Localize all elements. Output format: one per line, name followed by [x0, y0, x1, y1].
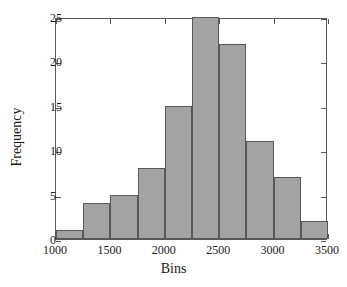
- x-tick-mark: [165, 234, 166, 239]
- y-tick-mark-right: [321, 19, 326, 20]
- x-tick-label: 3500: [315, 243, 339, 258]
- x-tick-label: 2000: [152, 243, 176, 258]
- histogram-figure: 100015002000250030003500 0510152025 Bins…: [0, 0, 347, 287]
- x-tick-mark: [56, 234, 57, 239]
- x-axis-title: Bins: [0, 261, 347, 277]
- y-tick-mark-right: [321, 152, 326, 153]
- histogram-bar: [274, 177, 301, 239]
- histogram-bar: [56, 230, 83, 239]
- y-tick-mark-right: [321, 197, 326, 198]
- histogram-bar: [219, 44, 246, 239]
- bar-series: [56, 19, 326, 239]
- x-tick-label: 3000: [261, 243, 285, 258]
- y-tick-mark-right: [321, 241, 326, 242]
- y-tick-mark: [56, 241, 61, 242]
- plot-area: [55, 18, 327, 240]
- x-tick-mark: [274, 234, 275, 239]
- histogram-bar: [138, 168, 165, 239]
- x-tick-mark: [219, 234, 220, 239]
- histogram-bar: [110, 195, 137, 239]
- histogram-bar: [301, 221, 328, 239]
- x-tick-mark-top: [274, 19, 275, 24]
- x-tick-mark-top: [165, 19, 166, 24]
- x-tick-label: 2500: [206, 243, 230, 258]
- y-tick-mark-right: [321, 63, 326, 64]
- histogram-bar: [83, 203, 110, 239]
- x-tick-mark-top: [328, 19, 329, 24]
- x-tick-mark-top: [110, 19, 111, 24]
- y-tick-mark: [56, 197, 61, 198]
- x-tick-mark: [110, 234, 111, 239]
- y-axis-title: Frequency: [9, 77, 25, 197]
- x-tick-label: 1500: [97, 243, 121, 258]
- x-tick-mark: [328, 234, 329, 239]
- histogram-bar: [246, 141, 273, 239]
- histogram-bar: [165, 106, 192, 239]
- histogram-bar: [192, 17, 219, 239]
- y-tick-mark-right: [321, 108, 326, 109]
- x-tick-mark-top: [219, 19, 220, 24]
